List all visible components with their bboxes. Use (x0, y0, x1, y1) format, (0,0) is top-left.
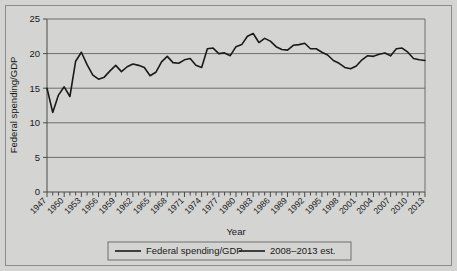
x-tick-label-2013: 2013 (406, 195, 427, 216)
x-tick-label-1959: 1959 (97, 195, 118, 216)
y-tick-label-15: 15 (29, 83, 40, 94)
x-tick-label-1980: 1980 (217, 195, 238, 216)
chart-legend: Federal spending/GDP 2008–2013 est. (108, 242, 351, 260)
y-tick-label-25: 25 (29, 13, 40, 24)
federal-spending-line-chart: 0510152025 19471950195319561959196219651… (0, 0, 457, 271)
x-tick-label-1971: 1971 (165, 195, 186, 216)
x-tick-label-1947: 1947 (28, 195, 49, 216)
x-tick-label-1962: 1962 (114, 195, 135, 216)
x-tick-label-1977: 1977 (200, 195, 221, 216)
x-tick-label-1974: 1974 (182, 195, 203, 216)
x-tick-label-1950: 1950 (45, 195, 66, 216)
legend-label-estimate: 2008–2013 est. (270, 245, 336, 256)
y-tick-label-20: 20 (29, 48, 40, 59)
legend-label-federal-spending: Federal spending/GDP (146, 245, 243, 256)
y-axis-ticks (43, 19, 47, 192)
x-tick-label-1956: 1956 (79, 195, 100, 216)
x-axis-title: Year (226, 226, 245, 237)
x-tick-label-2010: 2010 (389, 195, 410, 216)
x-tick-label-1989: 1989 (268, 195, 289, 216)
x-tick-label-2001: 2001 (337, 195, 358, 216)
y-axis-title: Federal spending/GDP (8, 57, 19, 154)
chart-figure: 0510152025 19471950195319561959196219651… (0, 0, 457, 271)
x-tick-label-1995: 1995 (303, 195, 324, 216)
plot-background (47, 19, 425, 192)
x-tick-label-2007: 2007 (371, 195, 392, 216)
x-tick-label-1968: 1968 (148, 195, 169, 216)
x-tick-label-1953: 1953 (62, 195, 83, 216)
x-tick-label-1986: 1986 (251, 195, 272, 216)
x-tick-label-1965: 1965 (131, 195, 152, 216)
x-tick-label-1983: 1983 (234, 195, 255, 216)
x-tick-label-1992: 1992 (286, 195, 307, 216)
y-tick-label-0: 0 (35, 186, 40, 197)
y-tick-label-10: 10 (29, 117, 40, 128)
x-tick-label-2004: 2004 (354, 195, 375, 216)
y-tick-label-5: 5 (35, 152, 40, 163)
y-axis-tick-labels: 0510152025 (29, 13, 40, 197)
x-tick-label-1998: 1998 (320, 195, 341, 216)
x-axis-tick-labels: 1947195019531956195919621965196819711974… (28, 195, 427, 216)
